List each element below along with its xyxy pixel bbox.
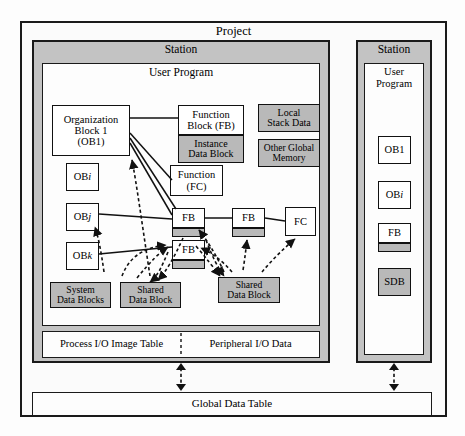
obi-label: OB — [74, 171, 89, 182]
peripheral-io-data-label: Peripheral I/O Data — [181, 338, 320, 349]
fb-b-label: FB — [233, 212, 264, 223]
obj-sub: j — [88, 211, 91, 222]
right-block-sdb[interactable]: SDB — [378, 268, 411, 296]
block-fb-a[interactable]: FB — [172, 208, 205, 228]
right-block-fb[interactable]: FB — [378, 223, 411, 243]
lsd-line1: Local — [278, 107, 301, 118]
station-right-user-program-title: User Program — [364, 66, 424, 90]
right-obi-sub: i — [400, 189, 403, 200]
block-fb-c-instance-strip — [172, 260, 205, 269]
right-ob1-label: OB1 — [379, 144, 410, 155]
block-fb-c[interactable]: FB — [172, 240, 205, 260]
ob1-line1: Organization — [64, 114, 119, 125]
block-fb-b-instance-strip — [232, 228, 265, 237]
block-system-data-blocks[interactable]: System Data Blocks — [50, 282, 111, 308]
station-left-user-program-title: User Program — [42, 66, 320, 78]
right-up-line2: Program — [376, 78, 412, 89]
obj-label: OB — [74, 211, 89, 222]
right-up-line1: User — [384, 66, 404, 77]
block-ob-i[interactable]: OBi — [66, 163, 99, 191]
block-instance-data-block[interactable]: Instance Data Block — [178, 135, 244, 163]
right-fb-label: FB — [379, 227, 410, 238]
block-fb-a-instance-strip — [172, 228, 205, 237]
block-ob-j[interactable]: OBj — [66, 203, 99, 231]
right-block-ob-i[interactable]: OBi — [378, 181, 411, 209]
fc-line2: (FC) — [187, 181, 207, 192]
block-ob-k[interactable]: OBk — [66, 242, 99, 270]
diagram-canvas: Project Station User Program Organizatio… — [0, 0, 465, 436]
station-right-user-program-panel — [364, 63, 424, 355]
lsd-line2: Stack Data — [267, 117, 311, 128]
fb-line2: Block (FB) — [187, 120, 235, 131]
station-left-title: Station — [32, 43, 330, 55]
global-data-table-label: Global Data Table — [32, 397, 432, 409]
ob1-line2: Block 1 — [75, 125, 108, 136]
right-block-ob1[interactable]: OB1 — [378, 136, 411, 164]
ogm-line2: Memory — [272, 152, 305, 163]
block-fc-right[interactable]: FC — [285, 207, 316, 236]
idb-line2: Data Block — [188, 148, 233, 159]
fb-line1: Function — [192, 109, 229, 120]
fb-c-label: FB — [173, 244, 204, 255]
ob1-line3: (OB1) — [78, 136, 105, 147]
block-function-block[interactable]: Function Block (FB) — [178, 105, 244, 135]
process-io-image-table-label: Process I/O Image Table — [42, 338, 181, 349]
shared2-line2: Data Block — [227, 289, 270, 300]
block-local-stack-data[interactable]: Local Stack Data — [258, 104, 320, 132]
station-right-title: Station — [356, 43, 432, 55]
right-obi-label: OB — [386, 189, 401, 200]
block-function-fc[interactable]: Function (FC) — [170, 165, 223, 196]
block-other-global-memory[interactable]: Other Global Memory — [258, 139, 320, 167]
block-fb-b[interactable]: FB — [232, 208, 265, 228]
project-title: Project — [20, 24, 447, 39]
obi-sub: i — [88, 171, 91, 182]
sdb-line2: Data Blocks — [57, 294, 104, 305]
shared1-line2: Data Block — [129, 294, 172, 305]
right-sdb-label: SDB — [379, 276, 410, 287]
right-block-fb-instance-strip — [378, 243, 411, 252]
block-shared-data-block-2[interactable]: Shared Data Block — [218, 277, 280, 303]
idb-line1: Instance — [194, 138, 227, 149]
obk-label: OB — [73, 250, 88, 261]
fb-a-label: FB — [173, 212, 204, 223]
block-organization-block-1[interactable]: Organization Block 1 (OB1) — [52, 105, 130, 156]
fc-right-label: FC — [286, 216, 315, 227]
fc-line1: Function — [178, 169, 215, 180]
obk-sub: k — [87, 250, 92, 261]
block-shared-data-block-1[interactable]: Shared Data Block — [120, 282, 181, 308]
